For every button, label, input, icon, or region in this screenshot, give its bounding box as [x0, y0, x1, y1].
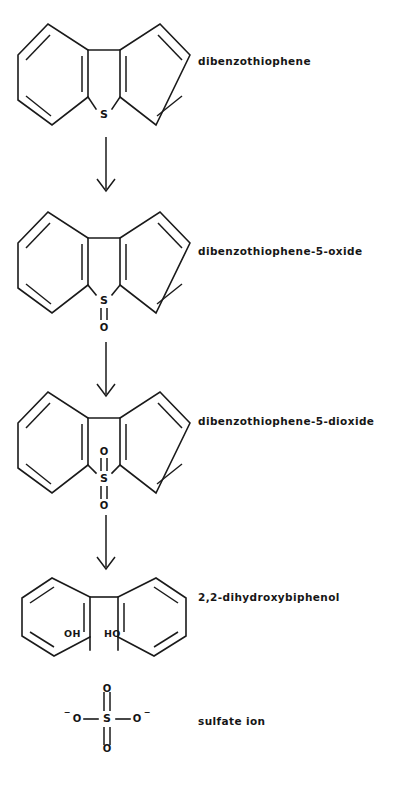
arrow-3 — [92, 515, 120, 573]
charge-minus-right: − — [144, 708, 151, 717]
structure-sulfate-ion: S O O O − O − — [42, 686, 172, 752]
structure-dihydroxybiphenol — [18, 578, 190, 650]
atom-oxygen-left: O — [73, 713, 82, 724]
atom-oxygen-top: O — [100, 446, 109, 457]
atom-oxygen-bottom: O — [103, 743, 112, 754]
atom-oxygen-top: O — [103, 683, 112, 694]
label-dibenzothiophene: dibenzothiophene — [198, 56, 311, 67]
atom-oxygen: O — [100, 322, 109, 333]
hydroxyl-label-right: HO — [104, 629, 121, 639]
label-sulfate-ion: sulfate ion — [198, 716, 265, 727]
label-dihydroxybiphenol: 2,2-dihydroxybiphenol — [198, 592, 340, 603]
atom-sulfur: S — [103, 712, 111, 725]
atom-sulfur: S — [100, 294, 108, 307]
arrow-1 — [92, 137, 120, 195]
label-dibenzothiophene-5-oxide: dibenzothiophene-5-oxide — [198, 246, 362, 257]
charge-minus-left: − — [64, 708, 71, 717]
structure-dibenzothiophene-5-oxide: S O — [14, 200, 194, 320]
label-dibenzothiophene-5-dioxide: dibenzothiophene-5-dioxide — [198, 416, 374, 427]
structure-dibenzothiophene: S — [14, 12, 194, 132]
atom-oxygen-bottom: O — [100, 500, 109, 511]
atom-sulfur: S — [100, 108, 108, 121]
atom-sulfur: S — [100, 472, 108, 485]
atom-oxygen-right: O — [133, 713, 142, 724]
hydroxyl-label-left: OH — [64, 629, 81, 639]
structure-dibenzothiophene-5-dioxide: S O O — [14, 380, 194, 500]
reaction-pathway-diagram: S dibenzothiophene S O dibenzothiophene-… — [0, 0, 397, 793]
